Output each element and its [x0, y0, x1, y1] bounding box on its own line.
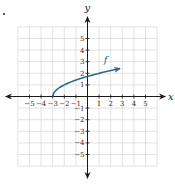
- x-tick-label: 1: [97, 100, 101, 108]
- x-tick-label: −4: [36, 100, 47, 108]
- x-tick-label: 2: [108, 100, 112, 108]
- curve-label-f: f: [103, 54, 110, 65]
- x-tick-label: 3: [120, 100, 124, 108]
- curves: [53, 69, 120, 97]
- y-tick-label: 1: [80, 81, 84, 89]
- y-tick-label: 4: [80, 47, 85, 55]
- curve-f: [53, 69, 120, 97]
- x-tick-label: −3: [48, 100, 58, 108]
- y-tick-label: −2: [74, 116, 84, 124]
- x-tick-label: −5: [24, 100, 34, 108]
- y-tick-label: 2: [80, 70, 84, 78]
- y-tick-label: −4: [74, 139, 85, 147]
- x-axis-title: x: [168, 91, 174, 102]
- x-tick-label: 5: [143, 100, 147, 108]
- y-tick-label: 5: [80, 35, 84, 43]
- y-tick-label: −1: [74, 105, 84, 113]
- x-tick-label: −2: [59, 100, 69, 108]
- y-tick-label: 3: [80, 58, 84, 66]
- function-graph: −5−4−3−2−11234554321−1−2−3−4−5 x y f: [0, 0, 175, 186]
- x-tick-label: 4: [132, 100, 137, 108]
- y-tick-label: −3: [74, 128, 84, 136]
- y-tick-label: −5: [74, 151, 84, 159]
- y-axis-title: y: [84, 2, 91, 13]
